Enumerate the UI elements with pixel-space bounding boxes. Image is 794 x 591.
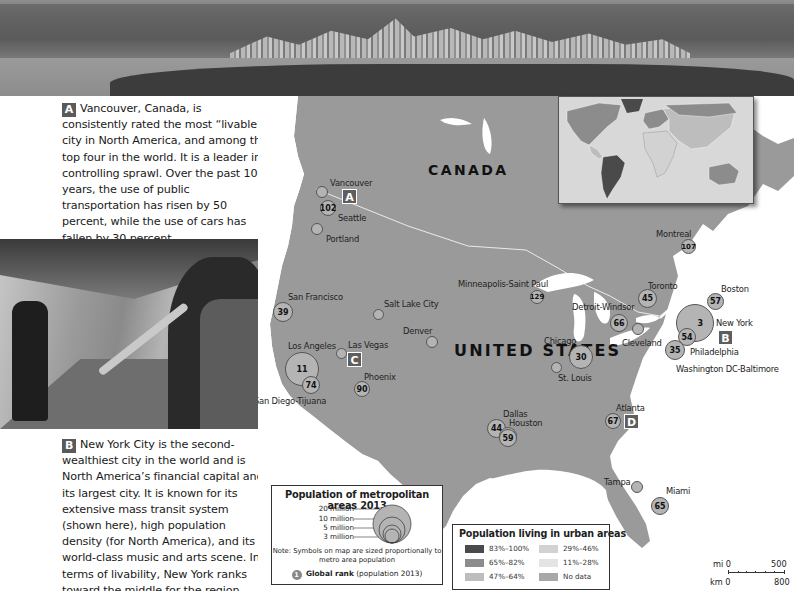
location-badge-b[interactable]: B [718,330,733,345]
inset-central-america [589,145,603,159]
legend-urban-item-11-28: 11%–28% [539,558,599,567]
scale-tick [774,571,775,573]
legend-urban-item-no-data: No data [539,572,591,581]
legend-urban-label: 11%–28% [563,558,599,567]
city-marker-portland[interactable] [311,223,323,235]
legend-urban-label: 83%–100% [489,544,529,553]
city-marker-st-louis[interactable] [551,362,562,373]
scale-km-max: 800 [774,577,790,587]
swatch-no-data [539,573,558,581]
caption-text-a: Vancouver, Canada, is consistently rated… [62,102,268,245]
legend-size-20m: 20 million [312,504,354,513]
city-label-san-francisco: San Francisco [288,292,343,302]
city-label-phoenix: Phoenix [364,372,396,382]
city-marker-san-diego-tijuana[interactable]: 74 [302,376,320,394]
legend-metro-note: Note: Symbols on map are sized proportio… [272,547,442,564]
city-marker-san-francisco[interactable]: 39 [273,302,293,322]
city-label-salt-lake-city: Salt Lake City [384,299,439,309]
city-label-new-york: New York [716,318,753,328]
city-marker-las-vegas[interactable] [336,348,347,359]
scale-mi-label: mi 0 [713,559,731,569]
swatch-65-82 [465,559,484,567]
legend-urban-item-65-82: 65%–82% [465,558,525,567]
location-badge-d[interactable]: D [624,414,639,429]
inset-australia [709,163,739,185]
location-badge-a[interactable]: A [342,189,357,204]
caption-new-york: BNew York City is the second-wealthiest … [62,437,268,591]
city-marker-phoenix[interactable]: 90 [354,381,370,397]
city-label-atlanta: Atlanta [616,403,645,413]
city-label-vancouver: Vancouver [330,178,372,188]
city-label-montreal: Montreal [656,229,691,239]
city-marker-detroit-windsor[interactable]: 66 [610,314,628,332]
scale-tick [765,571,766,573]
swatch-47-64 [465,573,484,581]
label-canada: CANADA [428,162,509,178]
location-badge-c[interactable]: C [347,352,362,367]
city-label-portland: Portland [326,234,359,244]
city-marker-houston[interactable]: 59 [499,429,517,447]
caption-text-b: New York City is the second-wealthiest c… [62,438,263,591]
scale-line [728,572,784,573]
photo-forest [110,64,794,96]
city-marker-cleveland[interactable] [632,323,644,335]
swatch-83-100 [465,545,484,553]
scale-tick [746,571,747,573]
city-label-las-vegas: Las Vegas [348,340,388,350]
legend-urban-label: 29%–46% [563,544,599,553]
city-label-tampa: Tampa [604,477,630,487]
scale-tick [738,571,739,573]
inset-africa [643,131,677,177]
photo-commuter [12,301,48,421]
legend-urban-item-29-46: 29%–46% [539,544,599,553]
city-label-detroit-windsor: Detroit-Windsor [572,302,635,312]
legend-rank-label: Global rank [306,569,354,578]
city-marker-tampa[interactable] [631,481,643,493]
world-map-shapes [559,97,754,204]
rank-symbol-icon: 1 [292,570,302,580]
city-marker-minneapolis[interactable]: 129 [530,290,544,304]
world-inset-map [558,96,754,204]
city-marker-miami[interactable]: 65 [651,497,669,515]
scale-mi-max: 500 [771,559,787,569]
swatch-11-28 [539,559,558,567]
city-marker-salt-lake-city[interactable] [373,309,384,320]
legend-global-rank: 1 Global rank (population 2013) [272,569,442,580]
legend-size-3m: 3 million [312,532,354,541]
city-marker-denver[interactable] [426,336,438,348]
city-label-miami: Miami [666,486,690,496]
city-marker-vancouver[interactable] [316,186,328,198]
legend-proportional-circles [354,500,414,546]
legend-size-10m: 10 million [312,514,354,523]
city-label-cleveland: Cleveland [622,338,662,348]
scale-km-label: km 0 [710,577,731,587]
city-label-los-angeles: Los Angeles [288,341,336,351]
city-label-san-diego-tijuana: San Diego-Tijuana [258,396,326,406]
city-marker-seattle[interactable]: 102 [320,200,336,216]
subway-musician-photo [0,239,268,429]
city-label-houston: Houston [509,418,542,428]
legend-urban-item-83-100: 83%–100% [465,544,529,553]
inset-greenland [621,99,643,113]
city-label-minneapolis: Minneapolis-Saint Paul [458,279,548,289]
city-label-st-louis: St. Louis [558,373,592,383]
city-marker-boston[interactable]: 57 [707,293,724,310]
inset-south-america [601,155,625,199]
scale-tick [784,570,785,574]
legend-metro-population: Population of metropolitan areas 2013 20… [271,485,443,585]
city-marker-montreal[interactable]: 107 [681,239,696,254]
city-label-washington-dc-baltimore: Washington DC-Baltimore [676,364,779,374]
city-marker-atlanta[interactable]: 67 [605,413,621,429]
legend-urban-population: Population living in urban areas 83%–100… [452,524,610,590]
legend-urban-label: 65%–82% [489,558,525,567]
city-marker-chicago[interactable]: 30 [569,345,593,369]
legend-urban-item-47-64: 47%–64% [465,572,525,581]
legend-rank-suffix: (population 2013) [356,569,422,578]
city-marker-washington-dc-baltimore[interactable]: 35 [665,340,685,360]
map-scale-bar: mi 0 500 km 0 800 [700,553,794,591]
legend-size-5m: 5 million [312,523,354,532]
caption-vancouver: AVancouver, Canada, is consistently rate… [62,101,268,247]
city-marker-toronto[interactable]: 45 [638,289,657,308]
caption-badge-a: A [62,103,76,117]
caption-badge-b: B [62,439,76,453]
